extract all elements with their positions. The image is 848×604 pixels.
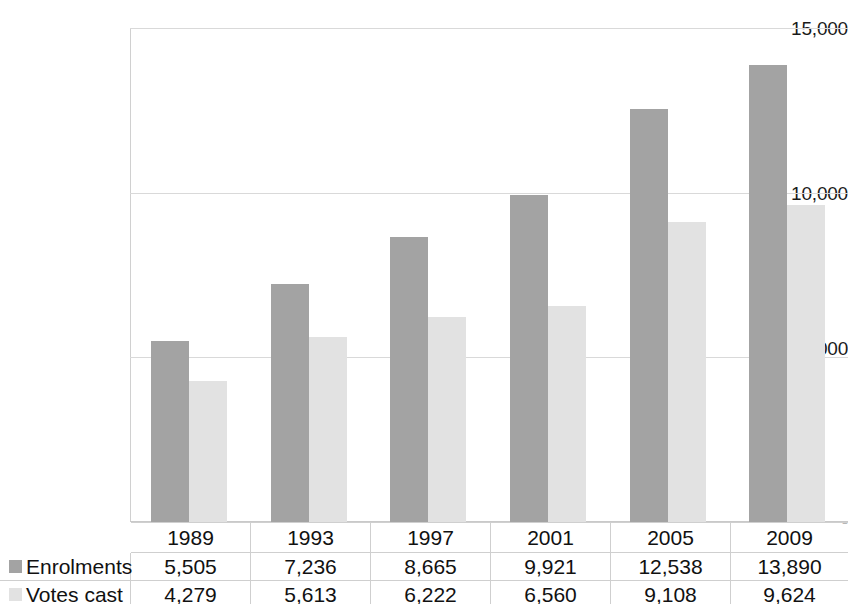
table-year-header-2005: 2005 <box>611 523 731 553</box>
table-cell-enrolments-2009: 13,890 <box>731 553 848 581</box>
table-header-row: 198919931997200120052009 <box>1 523 848 553</box>
table-cell-votes-cast-2001: 6,560 <box>491 581 611 604</box>
legend-label: Votes cast <box>26 584 123 604</box>
table-cell-enrolments-2005: 12,538 <box>611 553 731 581</box>
plot-area <box>130 28 848 522</box>
legend-label: Enrolments <box>26 556 132 577</box>
bar-votes-cast-1993 <box>309 337 347 522</box>
table-year-header-1997: 1997 <box>371 523 491 553</box>
table-year-header-2009: 2009 <box>731 523 848 553</box>
gridline-5000 <box>130 357 848 358</box>
bar-enrolments-2001 <box>510 195 548 522</box>
chart-page: 15,000 10,000 5,000 - 198919931997200120… <box>0 0 848 604</box>
bar-votes-cast-1989 <box>189 381 227 522</box>
bar-enrolments-2005 <box>630 109 668 522</box>
table-corner-cell <box>1 523 131 553</box>
legend-swatch-icon <box>9 560 22 573</box>
table-cell-votes-cast-2005: 9,108 <box>611 581 731 604</box>
data-table: 198919931997200120052009Enrolments5,5057… <box>0 522 848 604</box>
gridline-15000 <box>130 28 848 29</box>
table-cell-enrolments-2001: 9,921 <box>491 553 611 581</box>
bar-votes-cast-2005 <box>668 222 706 522</box>
bar-votes-cast-1997 <box>428 317 466 522</box>
table-cell-enrolments-1989: 5,505 <box>131 553 251 581</box>
gridline-10000 <box>130 193 848 194</box>
table-year-header-1993: 1993 <box>251 523 371 553</box>
table-cell-enrolments-1997: 8,665 <box>371 553 491 581</box>
legend-item-enrolments: Enrolments <box>1 553 131 581</box>
table-year-header-2001: 2001 <box>491 523 611 553</box>
table-cell-votes-cast-1993: 5,613 <box>251 581 371 604</box>
bar-enrolments-2009 <box>749 65 787 522</box>
bar-enrolments-1993 <box>271 284 309 522</box>
table-row: Votes cast4,2795,6136,2226,5609,1089,624 <box>1 581 848 604</box>
table-cell-enrolments-1993: 7,236 <box>251 553 371 581</box>
bar-enrolments-1989 <box>151 341 189 522</box>
table-row: Enrolments5,5057,2368,6659,92112,53813,8… <box>1 553 848 581</box>
table-cell-votes-cast-2009: 9,624 <box>731 581 848 604</box>
bar-votes-cast-2009 <box>787 205 825 522</box>
bar-enrolments-1997 <box>390 237 428 522</box>
table-cell-votes-cast-1989: 4,279 <box>131 581 251 604</box>
table-cell-votes-cast-1997: 6,222 <box>371 581 491 604</box>
legend-swatch-icon <box>9 588 22 601</box>
bar-votes-cast-2001 <box>548 306 586 522</box>
table-year-header-1989: 1989 <box>131 523 251 553</box>
legend-item-votes-cast: Votes cast <box>1 581 131 604</box>
